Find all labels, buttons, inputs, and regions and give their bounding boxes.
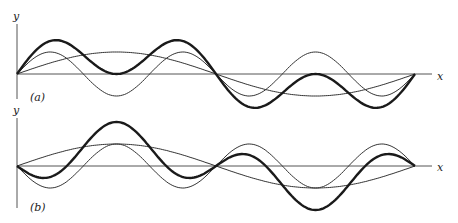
panel-b: y x (b) bbox=[12, 104, 444, 214]
y-axis-label: y bbox=[12, 10, 20, 23]
x-axis-label: x bbox=[437, 161, 444, 174]
panel-label: (a) bbox=[30, 91, 45, 104]
x-axis-label: x bbox=[437, 70, 444, 83]
superposition-diagram: y x (a) y x (b) bbox=[0, 0, 458, 223]
y-axis-label: y bbox=[12, 104, 20, 117]
panel-label: (b) bbox=[30, 201, 46, 214]
panel-a: y x (a) bbox=[12, 10, 444, 108]
